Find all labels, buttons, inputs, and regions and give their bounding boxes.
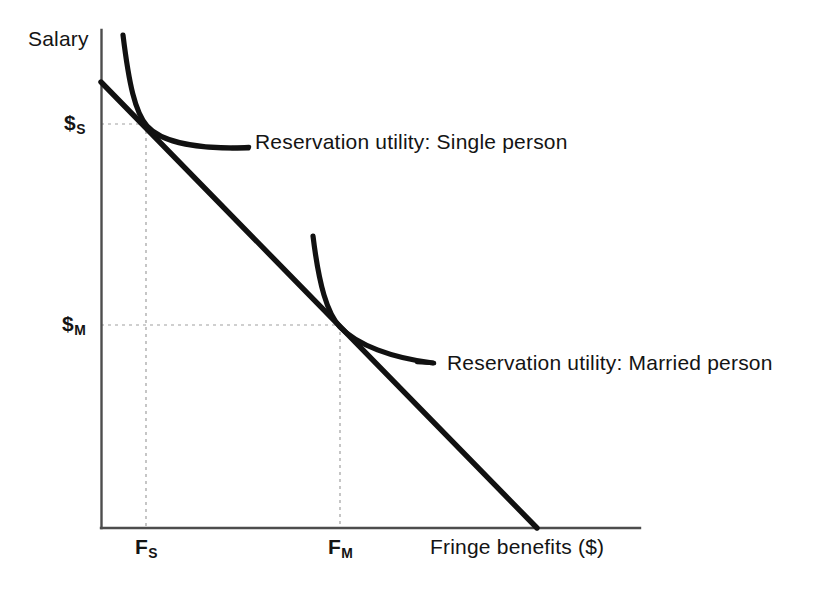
axes bbox=[101, 30, 640, 528]
y-tick-s-main: $ bbox=[64, 111, 76, 134]
reservation-utility-single-curve bbox=[123, 35, 248, 148]
x-tick-label-fringe-s: FS bbox=[135, 536, 157, 557]
y-tick-m-sub: M bbox=[74, 322, 86, 338]
x-tick-fs-sub: S bbox=[148, 545, 157, 561]
curve-label-married: Reservation utility: Married person bbox=[447, 352, 773, 373]
leader-single bbox=[232, 147, 249, 148]
curve-label-single: Reservation utility: Single person bbox=[255, 131, 568, 152]
x-tick-fm-sub: M bbox=[341, 545, 353, 561]
indifference-curve-figure: Salary Fringe benefits ($) $S $M FS FM R… bbox=[0, 0, 838, 593]
x-tick-fs-main: F bbox=[135, 535, 148, 558]
x-tick-fm-main: F bbox=[328, 535, 341, 558]
y-tick-s-sub: S bbox=[76, 121, 85, 137]
leader-married bbox=[417, 362, 434, 363]
x-tick-label-fringe-m: FM bbox=[328, 536, 353, 557]
y-tick-label-salary-m: $M bbox=[62, 313, 86, 334]
y-tick-label-salary-s: $S bbox=[64, 112, 85, 133]
y-tick-m-main: $ bbox=[62, 312, 74, 335]
y-axis-title: Salary bbox=[28, 28, 89, 49]
guide-lines bbox=[101, 124, 340, 528]
chart-canvas bbox=[0, 0, 838, 593]
x-axis-title: Fringe benefits ($) bbox=[430, 536, 604, 557]
reservation-utility-married-curve bbox=[313, 236, 433, 363]
label-leaders bbox=[232, 147, 434, 363]
